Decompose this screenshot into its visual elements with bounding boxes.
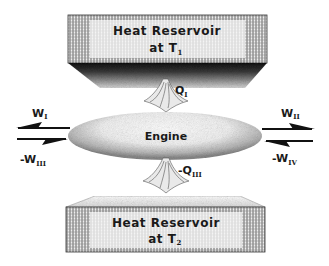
engine-label: Engine: [145, 130, 187, 143]
cold-reservoir: Heat Reservoir at T2: [66, 196, 265, 252]
arrow-right-in-icon: [264, 141, 313, 147]
cold-reservoir-label: Heat Reservoir: [112, 216, 220, 230]
arrow-left-in-icon: [17, 139, 68, 145]
work-right-arrows: WII -WIV: [262, 107, 315, 167]
work-right-out-label: WII: [281, 107, 300, 121]
hot-reservoir: Heat Reservoir at T1: [68, 15, 267, 88]
cold-reservoir-top-face: [66, 196, 265, 207]
work-left-out-label: WI: [32, 107, 47, 121]
work-left-in-label: -WIII: [20, 153, 46, 168]
hot-reservoir-label: Heat Reservoir: [113, 24, 221, 38]
arrow-right-out-icon: [262, 123, 315, 129]
heat-out-label: -QIII: [178, 164, 202, 179]
heat-engine-diagram: Heat Reservoir at T1 QI Engine WI -WIII: [0, 0, 329, 266]
work-left-arrows: WI -WIII: [16, 107, 70, 168]
engine: Engine: [68, 112, 262, 160]
arrow-left-out-icon: [16, 122, 70, 128]
work-right-in-label: -WIV: [272, 152, 297, 167]
